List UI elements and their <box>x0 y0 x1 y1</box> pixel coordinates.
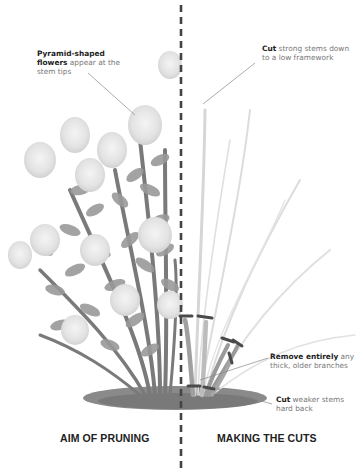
annotation-remove-old: Remove entirely any thick, older branche… <box>270 352 362 370</box>
annotation-remove-old-bold: Remove entirely <box>270 352 338 361</box>
left-shrub-stems <box>40 140 176 395</box>
annotation-cut-strong-text: strong stems down to a low framework <box>262 44 349 62</box>
heading-aim-of-pruning: AIM OF PRUNING <box>60 432 149 444</box>
annotation-flowers: Pyramid-shaped flowers appear at the ste… <box>37 49 127 76</box>
annotation-cut-weak-bold: Cut <box>276 395 290 404</box>
heading-making-the-cuts: MAKING THE CUTS <box>217 432 317 444</box>
annotation-cut-weak: Cut weaker stems hard back <box>276 395 346 413</box>
soil-mound <box>83 386 267 410</box>
annotation-cut-strong-bold: Cut <box>262 44 276 53</box>
annotation-cut-strong: Cut strong stems down to a low framework <box>262 44 352 62</box>
